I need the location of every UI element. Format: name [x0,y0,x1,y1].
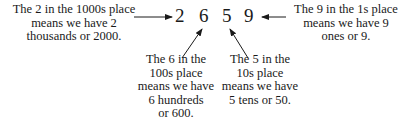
digit-tens: 5 [222,6,232,26]
hundreds-line-1: The 6 in the [136,53,216,67]
thousands-line-3: thousands or 2000. [12,30,136,44]
tens-line-4: 5 tens or 50. [220,94,300,108]
ones-line-2: means we have 9 [286,17,406,31]
tens-line-2: 10s place [220,67,300,81]
hundreds-line-2: 100s place [136,67,216,81]
tens-line-1: The 5 in the [220,53,300,67]
digit-thousands: 2 [175,6,185,26]
hundreds-line-4: 6 hundreds [136,94,216,108]
ones-annotation: The 9 in the 1s place means we have 9 on… [286,3,406,44]
ones-line-1: The 9 in the 1s place [286,3,406,17]
tens-annotation: The 5 in the 10s place means we have 5 t… [220,53,300,107]
ones-line-3: ones or 9. [286,30,406,44]
thousands-annotation: The 2 in the 1000s place means we have 2… [12,3,136,44]
hundreds-annotation: The 6 in the 100s place means we have 6 … [136,53,216,118]
hundreds-line-3: means we have [136,80,216,94]
thousands-line-2: means we have 2 [12,17,136,31]
digit-ones: 9 [244,6,254,26]
tens-line-3: means we have [220,80,300,94]
thousands-line-1: The 2 in the 1000s place [12,3,136,17]
digit-hundreds: 6 [199,6,209,26]
hundreds-line-5: or 600. [136,107,216,118]
